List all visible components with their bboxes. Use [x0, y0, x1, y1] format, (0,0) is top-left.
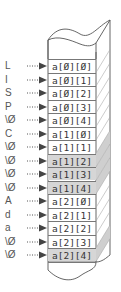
char-label: \Ø [5, 113, 25, 126]
array-cell: a[2][3] [48, 235, 96, 248]
char-label: d [5, 208, 25, 221]
dotted-arrow-icon [26, 100, 47, 113]
array-cell: a[1][3] [48, 167, 96, 180]
dotted-arrow-icon [26, 181, 47, 194]
array-cell: a[2][4] [48, 248, 96, 261]
dotted-arrow-icon [26, 127, 47, 140]
array-cell: a[Ø][4] [48, 113, 96, 126]
char-label: \Ø [5, 167, 25, 180]
char-label: \Ø [5, 248, 25, 261]
char-label: \Ø [5, 154, 25, 167]
dotted-arrow-icon [26, 235, 47, 248]
array-cell: a[2][Ø] [48, 194, 96, 207]
array-cell: a[Ø][3] [48, 100, 96, 113]
char-label: \Ø [5, 140, 25, 153]
bottom-wave [48, 262, 96, 280]
array-cell: a[Ø][1] [48, 73, 96, 86]
array-cell: a[Ø][Ø] [48, 59, 96, 72]
dotted-arrow-icon [26, 86, 47, 99]
array-cell: a[1][1] [48, 140, 96, 153]
char-label: L [5, 59, 25, 72]
char-label: P [5, 100, 25, 113]
dotted-arrow-icon [26, 167, 47, 180]
array-cell: a[2][1] [48, 208, 96, 221]
dotted-arrow-icon [26, 59, 47, 72]
char-label: I [5, 73, 25, 86]
char-label: \Ø [5, 235, 25, 248]
char-label: a [5, 221, 25, 234]
dotted-arrow-icon [26, 140, 47, 153]
char-label: S [5, 86, 25, 99]
char-label: C [5, 127, 25, 140]
dotted-arrow-icon [26, 154, 47, 167]
dotted-arrow-icon [26, 221, 47, 234]
top-wave [48, 20, 110, 40]
array-cell: a[1][2] [48, 154, 96, 167]
side-face-hatching [96, 50, 110, 262]
dotted-arrow-icon [26, 248, 47, 261]
dotted-arrow-icon [26, 194, 47, 207]
array-cell: a[1][Ø] [48, 127, 96, 140]
array-cell: a[1][4] [48, 181, 96, 194]
cell-bottom-border [48, 262, 96, 263]
char-label: \Ø [5, 181, 25, 194]
dotted-arrow-icon [26, 73, 47, 86]
array-cell: a[Ø][2] [48, 86, 96, 99]
char-label: A [5, 194, 25, 207]
dotted-arrow-icon [26, 208, 47, 221]
array-cell: a[2][2] [48, 221, 96, 234]
dotted-arrow-icon [26, 113, 47, 126]
